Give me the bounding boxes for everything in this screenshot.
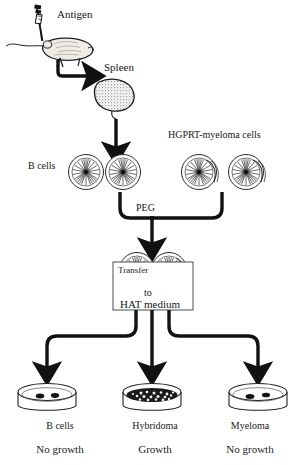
dish-status-myeloma: No growth	[205, 443, 295, 455]
arrow-icon-myeloma-to-fusion	[152, 192, 222, 218]
b-cells-label: B cells	[28, 161, 56, 171]
myeloma-cell-1	[182, 155, 219, 190]
arrow-icon-to-dish-3	[169, 310, 258, 372]
myeloma-cell-2	[229, 155, 266, 190]
b-cell-1	[69, 155, 104, 190]
to-label: to	[144, 288, 152, 298]
b-cell-2	[106, 155, 141, 190]
antigen-label: Antigen	[57, 9, 92, 20]
arrow-icon-mouse-to-spleen	[58, 60, 92, 76]
hat-medium-label: HAT medium	[120, 299, 180, 310]
syringe-icon	[34, 5, 43, 41]
dish-label-b-cells: B cells	[15, 420, 105, 431]
petri-dish-icon-1	[18, 384, 76, 411]
petri-dish-icon-2	[123, 384, 181, 411]
arrow-icon-to-dish-1	[47, 310, 136, 372]
dish-label-hybridoma: Hybridoma	[110, 420, 200, 431]
spleen-icon	[94, 79, 134, 119]
mouse-icon	[6, 38, 93, 67]
dish-label-myeloma: Myeloma	[205, 420, 295, 431]
dish-status-hybridoma: Growth	[110, 443, 200, 455]
hybridoma-diagram	[0, 0, 304, 465]
peg-label: PEG	[136, 203, 155, 213]
hgprt-myeloma-cells-label: HGPRT-myeloma cells	[168, 130, 261, 140]
transfer-label: Transfer	[118, 266, 148, 275]
spleen-label: Spleen	[104, 62, 134, 73]
petri-dish-icon-3	[229, 384, 287, 411]
dish-status-b-cells: No growth	[15, 443, 105, 455]
